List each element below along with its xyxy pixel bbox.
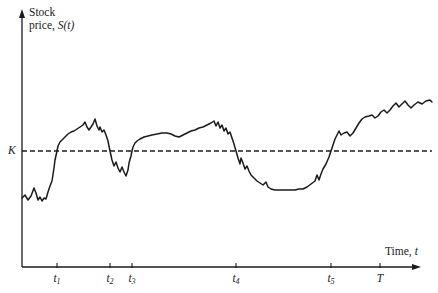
chart-canvas: [0, 0, 438, 293]
y-axis-arrowhead: [19, 9, 25, 18]
y-axis-title: Stock price, S(t): [29, 6, 74, 32]
x-axis-tick-label-t5: t5: [327, 272, 334, 286]
x-axis-title: Time, t: [385, 245, 418, 258]
x-axis-tick-label-t3: t3: [128, 272, 135, 286]
x-axis-tick-label-t2: t2: [106, 272, 113, 286]
y-axis: [19, 9, 25, 267]
y-axis-title-line1: Stock: [29, 6, 55, 18]
x-axis-title-prefix: Time,: [385, 245, 415, 257]
y-axis-title-symbol: S(t): [58, 19, 75, 31]
x-axis-tick-label-T: T: [377, 272, 383, 284]
x-axis-arrowhead: [412, 264, 421, 270]
y-axis-title-line2-prefix: price,: [29, 19, 58, 31]
x-axis-tick-label-t4: t4: [232, 272, 239, 286]
x-axis: [22, 263, 421, 270]
x-axis-title-symbol: t: [415, 245, 418, 257]
strike-price-label: K: [8, 144, 16, 157]
stock-price-chart: Stock price, S(t) Time, t K t1t2t3t4t5T: [0, 0, 438, 293]
x-axis-tick-label-t1: t1: [53, 272, 60, 286]
